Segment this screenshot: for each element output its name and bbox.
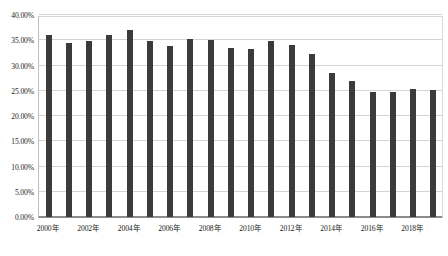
bar — [106, 35, 112, 217]
y-axis-label: 30.00% — [0, 63, 34, 71]
bar — [410, 89, 416, 217]
bar — [46, 35, 52, 217]
gridline-4000 — [39, 14, 442, 15]
y-axis-label: 10.00% — [0, 164, 34, 172]
plot-area — [38, 16, 443, 218]
y-axis-label: 15.00% — [0, 138, 34, 146]
bar — [86, 41, 92, 217]
bar — [66, 43, 72, 217]
bar — [127, 30, 133, 217]
bar — [147, 41, 153, 217]
bar — [329, 73, 335, 217]
bar — [349, 81, 355, 217]
bar — [248, 49, 254, 217]
y-axis-label: 20.00% — [0, 113, 34, 121]
x-axis-label: 2006年 — [148, 224, 192, 233]
bar-chart: 40.00%35.00%30.00%25.00%20.00%15.00%10.0… — [0, 0, 448, 256]
x-axis-label: 2016年 — [350, 224, 394, 233]
x-axis-label: 2012年 — [269, 224, 313, 233]
bar — [430, 90, 436, 217]
x-axis-label: 2002年 — [67, 224, 111, 233]
gridline-500 — [39, 191, 442, 192]
bar — [289, 45, 295, 217]
bar — [370, 92, 376, 217]
y-axis-label: 40.00% — [0, 12, 34, 20]
bar — [309, 54, 315, 217]
gridline-1000 — [39, 166, 442, 167]
gridline-3500 — [39, 39, 442, 40]
gridline-2500 — [39, 90, 442, 91]
gridline-2000 — [39, 115, 442, 116]
y-axis-label: 35.00% — [0, 37, 34, 45]
x-axis-label: 2008年 — [188, 224, 232, 233]
y-axis-label: 25.00% — [0, 88, 34, 96]
gridline-3000 — [39, 65, 442, 66]
x-axis-label: 2010年 — [229, 224, 273, 233]
gridline-1500 — [39, 140, 442, 141]
x-axis-label: 2000年 — [26, 224, 70, 233]
bar — [228, 48, 234, 217]
bar — [268, 41, 274, 217]
bar — [187, 39, 193, 217]
y-axis-label: 5.00% — [0, 189, 34, 197]
x-axis-label: 2014年 — [310, 224, 354, 233]
bar — [390, 92, 396, 217]
bar — [167, 46, 173, 217]
x-axis-label: 2004年 — [107, 224, 151, 233]
x-axis-label: 2018年 — [391, 224, 435, 233]
bar — [208, 40, 214, 217]
y-axis-label: 0.00% — [0, 214, 34, 222]
gridline-000 — [39, 216, 442, 217]
